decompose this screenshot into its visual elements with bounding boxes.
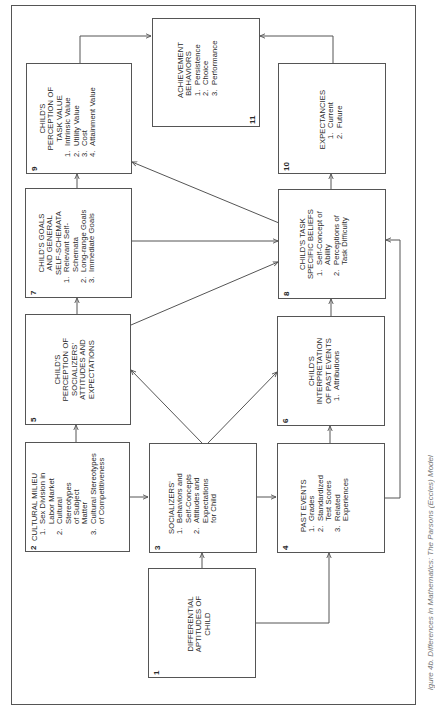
box-number: 7: [30, 290, 38, 295]
box-number: 6: [282, 418, 290, 423]
box-socializers: SOCIALIZERS' 1.Behaviors and Self-Concep…: [149, 443, 257, 553]
box-past-events: PAST EVENTS 1.Grades 2.Standardized Test…: [277, 443, 385, 553]
box-number: 11: [249, 115, 257, 124]
edge-8-9: [132, 162, 279, 223]
edge-3-6: [208, 372, 277, 443]
box-title: CHILD'S GOALS AND GENERAL SELF-SCHEMATA: [38, 195, 63, 291]
box-number: 2: [30, 545, 38, 550]
box-number: 10: [283, 162, 291, 171]
edge-3-5: [131, 370, 202, 443]
box-task-value: CHILD'S PERCEPTION OF TASK VALUE 1.Intri…: [26, 63, 132, 174]
box-goals-self-schemata: CHILD'S GOALS AND GENERAL SELF-SCHEMATA …: [25, 188, 132, 298]
box-number: 8: [283, 291, 291, 296]
edge-9-11: [80, 36, 151, 63]
box-interpretation-past-events: CHILD'S INTERPRETATION OF PAST EVENTS 1.…: [277, 316, 385, 426]
box-cultural-milieu: CULTURAL MILIEU 1.Sex Division in Labor …: [25, 442, 130, 552]
box-title: CHILD'S PERCEPTION OF TASK VALUE: [39, 70, 64, 167]
box-task-specific-beliefs: CHILD'S TASK SPECIFIC BELIEFS 1.Self-Con…: [278, 189, 386, 299]
edge-10-11: [260, 36, 333, 63]
box-number: 5: [30, 417, 38, 422]
box-title: DIFFERENTIAL APTITUDES OF CHILD: [187, 587, 212, 661]
box-perception-of-socializers: CHILD'S PERCEPTION OF SOCIALIZERS' ATTIT…: [25, 314, 131, 425]
box-number: 9: [31, 166, 39, 171]
box-title: CHILD'S PERCEPTION OF SOCIALIZERS' ATTIT…: [54, 321, 96, 418]
box-title: CHILD'S TASK SPECIFIC BELIEFS: [299, 196, 316, 292]
box-achievement-behaviors: ACHIEVEMENT BEHAVIORS 1.Persistence 2.Ch…: [152, 18, 260, 127]
figure-caption: igure 4b. Differences in Mathematics: Th…: [426, 430, 435, 690]
box-number: 3: [154, 545, 162, 550]
box-title: ACHIEVEMENT BEHAVIORS: [177, 27, 194, 120]
edge-5-8: [131, 262, 278, 325]
box-number: 4: [282, 545, 290, 550]
box-number: 1: [153, 670, 161, 675]
edge-1-4: [255, 553, 329, 623]
box-title: CHILD'S INTERPRETATION OF PAST EVENTS: [308, 323, 333, 419]
box-differential-aptitudes: DIFFERENTIAL APTITUDES OF CHILD 1: [148, 568, 256, 678]
box-expectancies: EXPECTANCIES 1.Current 2.Future 10: [278, 63, 386, 174]
